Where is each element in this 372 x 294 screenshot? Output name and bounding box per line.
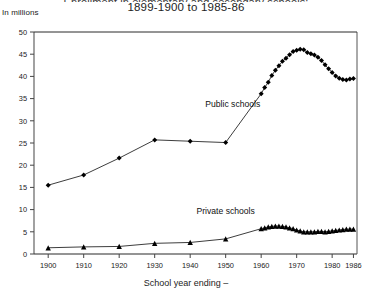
- x-tick-label: 1986: [345, 261, 361, 270]
- series-label-diamond: Public schools: [205, 99, 260, 109]
- y-tick-label: 10: [19, 205, 27, 214]
- y-tick-label: 0: [23, 250, 27, 259]
- data-point-marker: [188, 139, 193, 144]
- y-tick-label: 40: [19, 72, 27, 81]
- data-point-marker: [344, 77, 349, 82]
- data-point-marker: [351, 76, 356, 81]
- x-tick-label: 1960: [253, 261, 269, 270]
- data-point-marker: [262, 85, 267, 90]
- x-tick-label: 1970: [288, 261, 304, 270]
- chart-container: Enrollment in elementary and secondary s…: [0, 0, 372, 294]
- data-point-marker: [46, 183, 51, 188]
- data-point-marker: [266, 80, 271, 85]
- x-tick-label: 1950: [217, 261, 233, 270]
- y-tick-label: 5: [23, 228, 27, 237]
- y-tick-label: 15: [19, 183, 27, 192]
- data-point-marker: [117, 156, 122, 161]
- series-label-triangle: Private schools: [197, 206, 255, 216]
- y-tick-label: 35: [19, 94, 27, 103]
- x-tick-label: 1930: [146, 261, 162, 270]
- x-tick-label: 1910: [75, 261, 91, 270]
- y-tick-label: 45: [19, 50, 27, 59]
- x-axis-title: School year ending –: [0, 278, 372, 288]
- chart-plot-area: 0510152025303540455019001910192019301940…: [0, 0, 372, 294]
- series-line-diamond: [48, 49, 353, 185]
- x-tick-label: 1920: [111, 261, 127, 270]
- y-tick-label: 30: [19, 117, 27, 126]
- data-point-marker: [152, 137, 157, 142]
- y-tick-label: 50: [19, 28, 27, 37]
- series-line-triangle: [48, 226, 353, 248]
- y-tick-label: 20: [19, 161, 27, 170]
- y-tick-label: 25: [19, 139, 27, 148]
- data-point-marker: [81, 172, 86, 177]
- x-tick-label: 1940: [182, 261, 198, 270]
- data-point-marker: [269, 73, 274, 78]
- x-tick-label: 1900: [40, 261, 56, 270]
- x-tick-label: 1980: [324, 261, 340, 270]
